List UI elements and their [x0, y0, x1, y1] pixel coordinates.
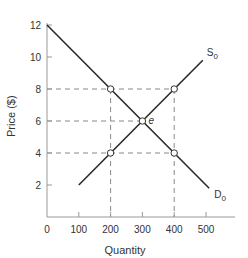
equilibrium-marker [139, 118, 145, 124]
y-tick-label: 8 [35, 84, 41, 95]
y-tick-label: 12 [30, 20, 42, 31]
supply-demand-chart: 246810120100200300400500QuantityPrice ($… [0, 0, 248, 258]
x-tick-label: 500 [198, 224, 215, 235]
point-marker [171, 86, 177, 92]
point-marker [107, 150, 113, 156]
y-axis-title: Price ($) [5, 95, 17, 137]
x-tick-label: 400 [166, 224, 183, 235]
y-tick-label: 4 [35, 148, 41, 159]
x-axis-title: Quantity [105, 244, 146, 256]
axes: 246810120100200300400500QuantityPrice ($… [5, 20, 235, 257]
curves [47, 25, 209, 188]
d0-curve [47, 25, 209, 188]
point-marker [171, 150, 177, 156]
s0-label: S0 [207, 47, 219, 61]
x-tick-label: 300 [134, 224, 151, 235]
x-tick-label: 100 [70, 224, 87, 235]
x-tick-label: 200 [102, 224, 119, 235]
d0-label: D0 [214, 189, 226, 203]
point-marker [107, 86, 113, 92]
labels: S0D0e [148, 47, 226, 203]
y-tick-label: 2 [35, 180, 41, 191]
y-tick-label: 6 [35, 116, 41, 127]
y-tick-label: 10 [30, 52, 42, 63]
x-tick-label: 0 [44, 224, 50, 235]
equilibrium-label: e [148, 115, 154, 126]
